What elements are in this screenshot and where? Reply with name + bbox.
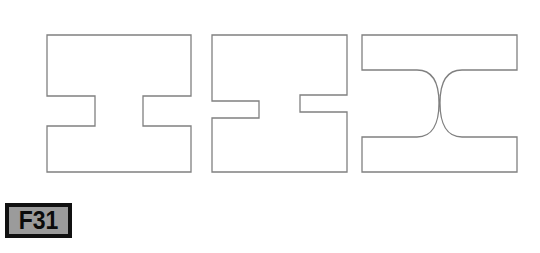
- shape-rounded-notches: [362, 35, 517, 172]
- figure-container: F31: [0, 0, 540, 253]
- figure-label-text: F31: [19, 208, 59, 233]
- shape-square-notches-deep: [47, 35, 191, 172]
- figure-label-badge: F31: [5, 203, 72, 238]
- shape-square-notches-narrow: [212, 35, 347, 172]
- shape-diagram-canvas: [0, 0, 540, 253]
